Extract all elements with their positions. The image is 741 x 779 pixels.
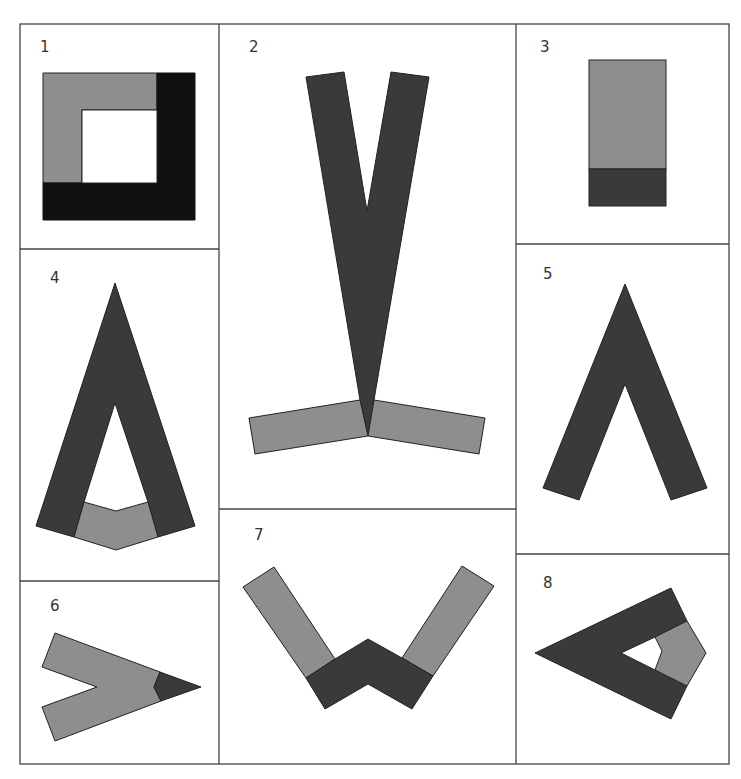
panel-3: 3 bbox=[540, 38, 666, 206]
panel-label: 6 bbox=[50, 597, 60, 615]
panel-label: 3 bbox=[540, 38, 550, 56]
panel-4: 4 bbox=[36, 269, 195, 550]
panel-8: 8 bbox=[535, 574, 706, 719]
panel-7: 7 bbox=[243, 526, 494, 709]
puzzle-figure: 1 2 3 4 5 bbox=[0, 0, 741, 779]
panel-label: 7 bbox=[254, 526, 264, 544]
shape-rectangle bbox=[589, 60, 666, 206]
panel-1: 1 bbox=[40, 38, 195, 220]
panel-label: 5 bbox=[543, 265, 553, 283]
shape-v-on-bars bbox=[249, 72, 485, 454]
panel-5: 5 bbox=[543, 265, 707, 500]
shape-arrow-right bbox=[42, 633, 201, 741]
shape-a-frame bbox=[36, 283, 195, 550]
shape-caret bbox=[543, 284, 707, 500]
panel-label: 1 bbox=[40, 38, 50, 56]
panel-label: 2 bbox=[249, 38, 259, 56]
shape-triangle-frame bbox=[535, 588, 706, 719]
panel-label: 8 bbox=[543, 574, 553, 592]
panel-2: 2 bbox=[249, 38, 485, 454]
panel-6: 6 bbox=[42, 597, 201, 741]
shape-square-ring bbox=[43, 73, 195, 220]
panel-label: 4 bbox=[50, 269, 60, 287]
shape-w-bars bbox=[243, 566, 494, 709]
